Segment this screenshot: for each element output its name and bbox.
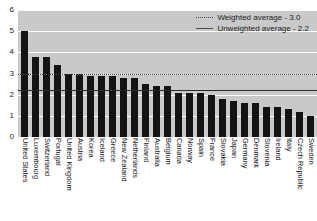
bar [274,107,282,137]
x-axis-tick-label: Switzerland [43,138,50,176]
bar [21,31,29,137]
bar [296,112,304,137]
bar [87,76,95,137]
x-axis-tick-label: Denmark [252,138,259,168]
x-axis-label-cell: Denmark [250,138,261,221]
x-axis-tick-label: United Kingdom [65,138,72,191]
dotted-line-swatch-icon [196,17,213,18]
bar [43,57,51,137]
x-axis-label-cell: United Kingdom [63,138,74,221]
reference-line-weighted-average [18,74,317,75]
x-axis-label-cell: Switzerland [41,138,52,221]
x-axis-tick-label: Belgium [164,138,171,165]
bar [109,76,117,137]
x-axis-label-cell: Germany [239,138,250,221]
bar [32,57,40,137]
bar [65,74,73,138]
x-axis-label-cell: Luxembourg [30,138,41,221]
bar [142,84,150,137]
x-axis-label-cell: Netherlands [129,138,140,221]
x-axis-tick-label: Slovakia [219,138,226,166]
x-axis-label-cell: New Zealand [118,138,129,221]
bar [263,107,271,137]
legend-item-weighted-average: Weighted average - 3.0 [196,12,309,23]
x-axis-tick-label: United States [21,138,28,182]
x-axis-tick-label: Slovenia [263,138,270,166]
legend-label-unweighted-average: Unweighted average - 2.2 [217,23,309,34]
x-axis-label-cell: Iceland [96,138,107,221]
x-axis-tick-label: Netherlands [131,138,138,178]
bar [197,93,205,137]
x-axis-label-cell: Spain [195,138,206,221]
bar [230,101,238,137]
x-axis-tick-label: Japan [230,138,237,158]
x-axis-tick-label: Ireland [274,138,281,161]
x-axis-label-cell: Finland [140,138,151,221]
legend-label-weighted-average: Weighted average - 3.0 [217,12,300,23]
bar [164,86,172,137]
x-axis-label-cell: Ireland [272,138,283,221]
x-axis-tick-label: France [208,138,215,161]
bar-chart: 0123456 United StatesLuxembourgSwitzerla… [0,0,317,221]
x-axis-tick-label: Sweden [307,138,314,165]
bar [54,65,62,137]
x-axis-labels: United StatesLuxembourgSwitzerlandPortug… [18,138,317,221]
x-axis-label-cell: Australia [151,138,162,221]
x-axis-label-cell: Slovakia [217,138,228,221]
x-axis-tick-label: Germany [241,138,248,168]
x-axis-label-cell: Belgium [162,138,173,221]
y-axis-tick-label: 5 [0,27,14,35]
x-axis-tick-label: Italy [285,138,292,152]
y-axis-tick-label: 2 [0,91,14,99]
bar [131,78,139,137]
x-axis-label-cell: Slovenia [261,138,272,221]
x-axis-label-cell: Czech Republic [294,138,305,221]
x-axis-tick-label: Greece [109,138,116,162]
reference-line-unweighted-average [18,90,317,91]
bar [252,103,260,137]
x-axis-label-cell: United States [19,138,30,221]
x-axis-tick-label: Portugal [54,138,61,166]
bar [186,93,194,137]
bar [285,109,293,137]
x-axis-label-cell: Japan [228,138,239,221]
y-axis-tick-label: 6 [0,6,14,14]
x-axis-label-cell: Sweden [305,138,316,221]
y-axis: 0123456 [0,10,18,137]
bar [98,76,106,137]
x-axis-tick-label: Spain [197,138,204,157]
x-axis-label-cell: Korea [85,138,96,221]
x-axis-label-cell: Italy [283,138,294,221]
x-axis-label-cell: Austria [74,138,85,221]
x-axis-tick-label: Luxembourg [32,138,39,179]
bar [76,74,84,138]
solid-line-swatch-icon [196,28,213,29]
x-axis-tick-label: Austria [76,138,83,161]
x-axis-tick-label: Iceland [98,138,105,162]
x-axis-tick-label: Finland [142,138,149,162]
x-axis-tick-label: Czech Republic [296,138,303,190]
bar [120,78,128,137]
y-axis-tick-label: 1 [0,112,14,120]
legend: Weighted average - 3.0 Unweighted averag… [196,12,309,34]
bar [219,99,227,137]
x-axis-tick-label: Canada [175,138,182,164]
y-axis-tick-label: 4 [0,48,14,56]
legend-item-unweighted-average: Unweighted average - 2.2 [196,23,309,34]
bar [175,93,183,137]
bar [153,86,161,137]
x-axis-tick-label: New Zealand [120,138,127,182]
x-axis-label-cell: Canada [173,138,184,221]
y-axis-tick-label: 0 [0,133,14,141]
x-axis-tick-label: Korea [87,138,94,158]
x-axis-label-cell: Norway [184,138,195,221]
bar [241,103,249,137]
x-axis-label-cell: Portugal [52,138,63,221]
x-axis-label-cell: Greece [107,138,118,221]
x-axis-tick-label: Norway [186,138,193,163]
x-axis-tick-label: Australia [153,138,160,167]
y-axis-tick-label: 3 [0,70,14,78]
x-axis-label-cell: France [206,138,217,221]
bar [307,116,315,137]
bar [208,95,216,137]
